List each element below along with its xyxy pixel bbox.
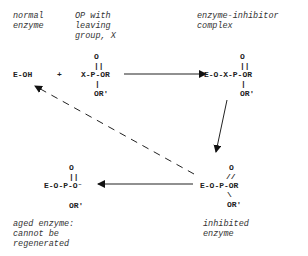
aged-or-prime: OR' bbox=[69, 201, 83, 210]
arrow-dashed-inhibited-to-normal bbox=[35, 86, 194, 174]
op-double-bond: || bbox=[94, 61, 104, 70]
complex-single-bond: | bbox=[241, 79, 246, 88]
label-enzyme-inhibitor-complex: enzyme-inhibitor complex bbox=[197, 11, 279, 31]
label-normal-enzyme: normal enzyme bbox=[13, 11, 44, 31]
complex-double-bond: || bbox=[240, 61, 250, 70]
species-aged-enzyme: E-O-P-O⁻ bbox=[44, 181, 82, 190]
op-or-prime: OR' bbox=[94, 89, 108, 98]
plus-sign: + bbox=[57, 70, 62, 79]
op-oxygen: O bbox=[94, 52, 99, 61]
complex-or-prime: OR' bbox=[240, 89, 254, 98]
aged-double-bond: || bbox=[69, 172, 79, 181]
complex-oxygen: O bbox=[240, 52, 245, 61]
inhibited-single-bond: \ bbox=[227, 190, 232, 199]
label-op-leaving-group: OP with leaving group, X bbox=[75, 11, 116, 41]
inhibited-double-bond: // bbox=[226, 172, 236, 181]
species-enzyme-inhibitor-complex: E-O-X-P-OR bbox=[204, 70, 252, 79]
label-aged-enzyme: aged enzyme: cannot be regenerated bbox=[13, 219, 74, 249]
inhibited-or-prime: OR' bbox=[227, 200, 241, 209]
aged-oxygen: O bbox=[69, 163, 74, 172]
species-normal-enzyme: E-OH bbox=[13, 70, 32, 79]
inhibited-oxygen: O bbox=[229, 163, 234, 172]
species-inhibited-enzyme: E-O-P-OR bbox=[200, 181, 238, 190]
arrow-complex-to-inhibited bbox=[216, 100, 227, 152]
label-inhibited-enzyme: inhibited enzyme bbox=[203, 219, 249, 239]
reaction-arrows bbox=[0, 0, 308, 256]
species-op: X-P-OR bbox=[81, 70, 110, 79]
op-single-bond: | bbox=[95, 79, 100, 88]
